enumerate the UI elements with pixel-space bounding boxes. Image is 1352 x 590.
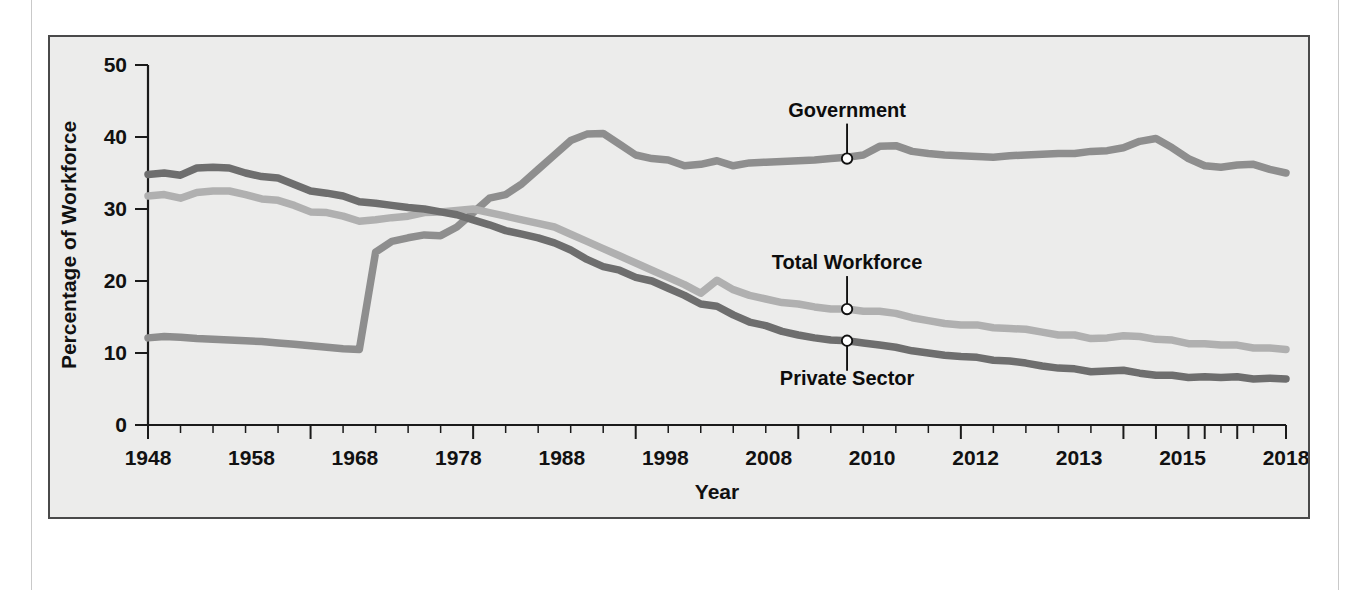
- annotation-label-total-workforce: Total Workforce: [772, 251, 922, 273]
- x-axis-tick-label: 1948: [125, 446, 172, 469]
- annotation-marker-total-workforce: [842, 304, 852, 314]
- y-axis-tick-label: 30: [104, 197, 127, 220]
- x-axis-tick-label: 2013: [1056, 446, 1103, 469]
- y-axis-tick-label: 50: [104, 53, 127, 76]
- x-axis-title: Year: [695, 480, 739, 503]
- page-margin-rule-left: [31, 0, 32, 590]
- line-chart: 01020304050Percentage of Workforce194819…: [50, 37, 1308, 517]
- series-line-total-workforce: [148, 191, 1286, 349]
- annotation-marker-government: [842, 153, 852, 163]
- x-axis-tick-label: 2018: [1263, 446, 1308, 469]
- x-axis-tick-label: 2010: [849, 446, 896, 469]
- annotation-label-private-sector: Private Sector: [780, 367, 915, 389]
- annotation-marker-private-sector: [842, 336, 852, 346]
- x-axis-tick-label: 1978: [435, 446, 482, 469]
- x-axis-tick-label: 1968: [332, 446, 379, 469]
- y-axis-title: Percentage of Workforce: [57, 121, 80, 369]
- series-line-government: [148, 133, 1286, 349]
- y-axis-tick-label: 10: [104, 341, 127, 364]
- chart-figure: 01020304050Percentage of Workforce194819…: [48, 35, 1310, 519]
- x-axis-tick-label: 1958: [228, 446, 275, 469]
- x-axis-tick-label: 2015: [1159, 446, 1206, 469]
- x-axis-tick-label: 2008: [745, 446, 792, 469]
- y-axis-tick-label: 0: [115, 413, 127, 436]
- annotation-label-government: Government: [788, 99, 906, 121]
- y-axis-tick-label: 40: [104, 125, 127, 148]
- x-axis-tick-label: 2012: [952, 446, 999, 469]
- figure-page: 01020304050Percentage of Workforce194819…: [0, 0, 1352, 590]
- y-axis-tick-label: 20: [104, 269, 127, 292]
- x-axis-tick-label: 1988: [538, 446, 585, 469]
- page-margin-rule-right: [1338, 0, 1339, 590]
- x-axis-tick-label: 1998: [642, 446, 689, 469]
